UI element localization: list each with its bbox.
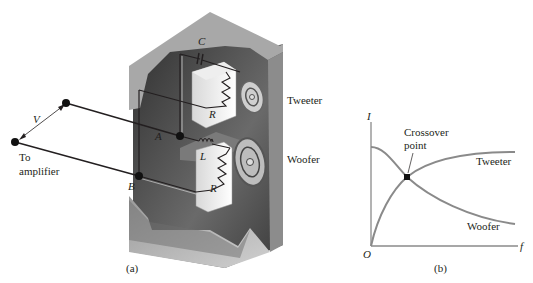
resistor-bottom-label: R	[209, 182, 217, 194]
inductor-label: L	[199, 150, 206, 162]
crossover-point-marker	[404, 174, 410, 180]
node-b-label: B	[128, 180, 135, 192]
crossover-leader	[408, 153, 413, 173]
node-b-dot	[135, 172, 143, 180]
terminal-top	[62, 99, 70, 107]
woofer-curve-label: Woofer	[467, 220, 500, 232]
tweeter-curve-label: Tweeter	[476, 155, 512, 167]
caption-a: (a)	[126, 262, 139, 275]
crossover-label-line2: point	[404, 139, 427, 151]
figure-canvas: V To amplifier A B C L R R Tweeter Woofe…	[0, 0, 533, 283]
x-axis-label: f	[520, 240, 525, 252]
tweeter-label: Tweeter	[287, 94, 323, 106]
origin-label: O	[363, 248, 371, 260]
resistor-top-label: R	[208, 108, 216, 120]
terminal-bottom	[11, 138, 19, 146]
amplifier-label-line2: amplifier	[19, 165, 60, 177]
woofer-label: Woofer	[287, 153, 320, 165]
capacitor-label: C	[198, 35, 206, 47]
amplifier-label-line1: To	[19, 151, 31, 163]
caption-b: (b)	[434, 262, 447, 275]
y-axis-label: I	[366, 110, 372, 122]
node-a-label: A	[154, 130, 162, 142]
node-a-dot	[176, 132, 184, 140]
crossover-label-line1: Crossover	[404, 126, 449, 138]
